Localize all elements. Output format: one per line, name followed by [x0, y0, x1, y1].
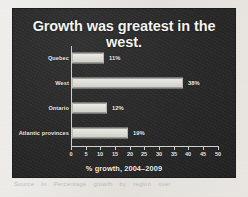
category-label-quebec: Quebec: [48, 55, 69, 61]
bar-row: West 38%: [13, 70, 235, 95]
bleed-word: Source: [14, 181, 34, 187]
bar-atlantic-provinces: [72, 127, 128, 138]
value-label-ontario: 12%: [112, 105, 124, 111]
bleed-word: region: [133, 181, 151, 187]
tick-mark: [100, 146, 101, 150]
bar-ontario: [72, 102, 107, 113]
bleed-word: In: [41, 181, 46, 187]
bar-west: [72, 77, 183, 88]
tick-label: 15: [112, 151, 118, 157]
plot-area: Quebec 11% West 38% Ontario 12% Atlantic…: [13, 45, 235, 177]
page-background: Source In Percentage growth by region ov…: [0, 0, 248, 197]
category-label-west: West: [55, 80, 69, 86]
bar-chart-figure: Growth was greatest in the west. Quebec …: [13, 9, 235, 177]
tick-label: 30: [156, 151, 162, 157]
tick-label: 45: [200, 151, 206, 157]
bar-row: Ontario 12%: [13, 95, 235, 120]
tick-mark: [159, 146, 160, 150]
tick-label: 35: [171, 151, 177, 157]
category-label-ontario: Ontario: [48, 105, 69, 111]
tick-label: 5: [84, 151, 87, 157]
tick-mark: [115, 146, 116, 150]
tick-mark: [174, 146, 175, 150]
bleed-word: growth: [93, 181, 112, 187]
tick-mark: [71, 146, 72, 150]
value-label-quebec: 11%: [109, 55, 120, 61]
tick-label: 50: [215, 151, 221, 157]
tick-label: 20: [127, 151, 133, 157]
bleed-word: Percentage: [54, 181, 87, 187]
bar-row: Quebec 11%: [13, 45, 235, 70]
tick-label: 10: [97, 151, 103, 157]
tick-label: 0: [69, 151, 72, 157]
tick-mark: [188, 146, 189, 150]
bleed-word: by: [120, 181, 127, 187]
value-label-west: 38%: [188, 80, 200, 86]
bar-quebec: [72, 52, 104, 63]
tick-label: 25: [141, 151, 147, 157]
bleed-word: over: [158, 181, 170, 187]
value-label-atlantic-provinces: 19%: [133, 130, 145, 136]
page-bleed-text: Source In Percentage growth by region ov…: [14, 181, 240, 193]
tick-label: 40: [185, 151, 191, 157]
category-label-atlantic-provinces: Atlantic provinces: [19, 130, 69, 136]
tick-mark: [144, 146, 145, 150]
tick-mark: [130, 146, 131, 150]
tick-mark: [203, 146, 204, 150]
tick-mark: [218, 146, 219, 150]
bar-row: Atlantic provinces 19%: [13, 120, 235, 145]
x-axis-ticks: 0 5 10 15 20 25 30 35 40 45 50: [13, 146, 235, 164]
tick-mark: [86, 146, 87, 150]
x-axis-title: % growth, 2004–2009: [13, 164, 235, 173]
